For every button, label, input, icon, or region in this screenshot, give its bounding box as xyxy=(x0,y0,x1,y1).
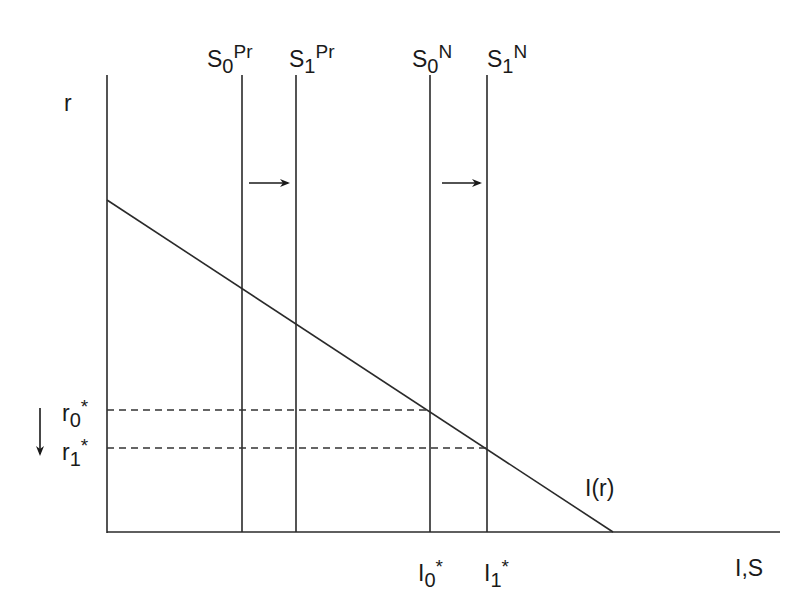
y-axis-label: r xyxy=(64,92,72,115)
supply-national-1-label: S1N xyxy=(487,42,527,76)
x-axis-label: I,S xyxy=(735,557,763,580)
i0-star-label: I0* xyxy=(418,557,443,590)
investment-demand-line xyxy=(107,200,613,532)
investment-demand-label: I(r) xyxy=(585,477,614,500)
i1-star-label: I1* xyxy=(484,557,509,590)
supply-private-1-label: S1Pr xyxy=(289,42,334,76)
r1-star-label: r1* xyxy=(62,436,88,469)
supply-national-0-label: S0N xyxy=(412,42,452,76)
supply-private-0-label: S0Pr xyxy=(207,42,252,76)
diagram-canvas xyxy=(0,0,790,608)
r0-star-label: r0* xyxy=(62,397,88,430)
